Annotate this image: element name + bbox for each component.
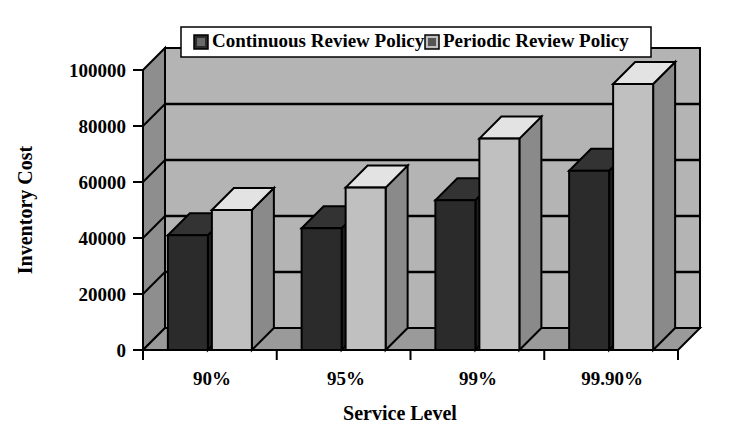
- bar-front-face: [569, 171, 609, 350]
- bar-front-face: [168, 235, 208, 350]
- legend-label-periodic: Periodic Review Policy: [443, 30, 629, 51]
- x-category-label-0: 90%: [193, 368, 231, 389]
- bar-side-face: [252, 188, 274, 350]
- legend-swatch-continuous-inner-icon: [197, 38, 205, 46]
- bar-99%-series-2[interactable]: [479, 117, 541, 350]
- bar-99.90%-series-2[interactable]: [613, 62, 675, 350]
- bar-90%-series-2[interactable]: [212, 188, 274, 350]
- bar-front-face: [613, 84, 653, 350]
- y-tick-label-80000: 80000: [79, 116, 127, 137]
- chart-legend: Continuous Review Policy Periodic Review…: [181, 27, 651, 57]
- legend-entry-periodic[interactable]: Periodic Review Policy: [425, 30, 629, 51]
- legend-swatch-periodic-inner-icon: [428, 38, 436, 46]
- bar-front-face: [435, 200, 475, 350]
- bar-front-face: [212, 210, 252, 350]
- y-axis-title: Inventory Cost: [14, 146, 37, 275]
- chart-container: 100000 80000 60000 40000 20000 0 Invento…: [0, 0, 738, 438]
- bar-side-face: [653, 62, 675, 350]
- x-axis-title: Service Level: [343, 402, 457, 424]
- bar-front-face: [302, 228, 342, 350]
- inventory-cost-bar-chart: 100000 80000 60000 40000 20000 0 Invento…: [0, 0, 738, 438]
- bar-front-face: [479, 139, 519, 350]
- y-tick-label-40000: 40000: [79, 228, 127, 249]
- x-category-label-3: 99.90%: [581, 368, 643, 389]
- bar-side-face: [519, 117, 541, 350]
- legend-entry-continuous[interactable]: Continuous Review Policy: [194, 30, 425, 51]
- plot-left-wall: [143, 48, 165, 350]
- legend-label-continuous: Continuous Review Policy: [212, 30, 425, 51]
- y-tick-label-20000: 20000: [79, 284, 127, 305]
- bar-front-face: [346, 188, 386, 350]
- y-tick-label-60000: 60000: [79, 172, 127, 193]
- x-category-label-2: 99%: [459, 368, 497, 389]
- x-category-label-1: 95%: [327, 368, 365, 389]
- bar-side-face: [386, 166, 408, 350]
- bar-95%-series-2[interactable]: [346, 166, 408, 350]
- y-tick-label-0: 0: [117, 340, 127, 361]
- y-tick-label-100000: 100000: [69, 60, 126, 81]
